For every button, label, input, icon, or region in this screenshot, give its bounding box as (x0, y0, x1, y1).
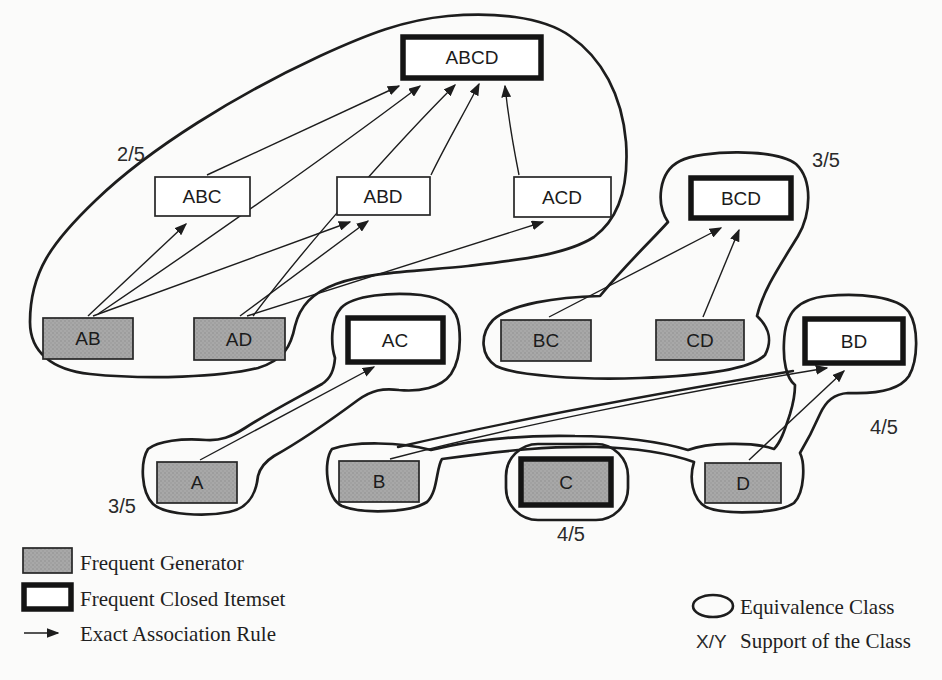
itemset-d: D (705, 463, 781, 503)
itemset-bd-label: BD (841, 331, 867, 352)
itemset-b: B (339, 461, 419, 502)
rule-ab-abd (93, 222, 350, 316)
support-label-c-class: 4/5 (557, 523, 585, 545)
itemset-ac: AC (348, 318, 443, 362)
exact-association-rules (88, 84, 844, 460)
legend-closed-itemset-label: Frequent Closed Itemset (80, 587, 285, 611)
rule-d-bd (749, 371, 844, 460)
itemset-bcd: BCD (691, 178, 791, 218)
itemset-ab-label: AB (75, 328, 100, 349)
itemset-ab: AB (43, 318, 133, 359)
support-label-bcd-class: 3/5 (812, 149, 840, 171)
support-label-bd-class: 4/5 (870, 416, 898, 438)
itemset-abd-label: ABD (363, 186, 402, 207)
itemset-abcd: ABCD (403, 37, 541, 78)
itemset-c-label: C (559, 472, 573, 493)
itemset-a-label: A (191, 472, 204, 493)
rule-ad-acd (247, 222, 543, 316)
rule-cd-bcd (703, 230, 739, 317)
itemset-bd: BD (805, 319, 903, 363)
itemset-acd: ACD (514, 177, 611, 217)
itemset-cd: CD (656, 320, 744, 360)
rule-bc-bcd (549, 228, 721, 317)
legend-equivalence-class-ellipse (693, 595, 733, 617)
rule-abd-abcd (431, 84, 479, 175)
itemset-bc: BC (501, 320, 591, 361)
legend: Frequent Generator Frequent Closed Items… (23, 548, 911, 653)
itemset-acd-label: ACD (542, 187, 582, 208)
itemset-abd: ABD (337, 177, 430, 215)
itemset-d-label: D (736, 473, 750, 494)
rule-ab-abc (88, 224, 186, 316)
itemset-ac-label: AC (382, 330, 408, 351)
legend-equivalence-class-label: Equivalence Class (740, 595, 895, 619)
legend-closed-itemset-swatch (24, 585, 71, 609)
legend-support-symbol: X/Y (696, 631, 727, 652)
itemset-a: A (157, 462, 237, 503)
itemset-ad-label: AD (226, 329, 252, 350)
legend-generator-swatch (23, 548, 72, 573)
support-label-abcd-class: 2/5 (117, 143, 145, 165)
itemset-ad: AD (194, 318, 285, 360)
itemset-abcd-label: ABCD (446, 47, 499, 68)
itemset-bcd-label: BCD (721, 188, 761, 209)
itemset-cd-label: CD (686, 330, 713, 351)
itemset-b-label: B (373, 471, 386, 492)
legend-support-of-class-label: Support of the Class (740, 629, 911, 653)
itemset-bc-label: BC (533, 330, 559, 351)
itemset-lattice-figure: ABCD ABC ABD ACD BCD AB AD AC (0, 0, 942, 680)
itemset-abc: ABC (155, 177, 250, 216)
legend-exact-rule-label: Exact Association Rule (80, 622, 276, 646)
support-label-a-ac-class: 3/5 (108, 495, 136, 517)
equivalence-class-boundaries (30, 15, 916, 520)
legend-generator-label: Frequent Generator (80, 551, 244, 575)
itemset-nodes: ABCD ABC ABD ACD BCD AB AD AC (43, 37, 903, 505)
itemset-abc-label: ABC (182, 186, 221, 207)
equivalence-classes-diagram: ABCD ABC ABD ACD BCD AB AD AC (0, 0, 942, 680)
rule-acd-abcd (505, 86, 519, 175)
itemset-c: C (521, 459, 611, 505)
